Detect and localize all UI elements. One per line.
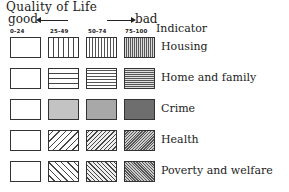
range-label: 0-24	[10, 28, 25, 34]
bad-label: bad	[135, 12, 158, 26]
indicator-header: Indicator	[156, 22, 207, 35]
indicator-label-crime: Crime	[161, 102, 195, 115]
indicator-label-health: Health	[161, 133, 199, 146]
range-label: 25-49	[50, 28, 69, 34]
arrow-left-icon	[40, 20, 68, 21]
swatch-poverty-1	[48, 161, 79, 182]
swatch-home-2	[86, 68, 117, 89]
indicator-label-housing: Housing	[161, 40, 208, 53]
swatch-poverty-2	[86, 161, 117, 182]
swatch-home-3	[124, 68, 155, 89]
swatch-health-2	[86, 130, 117, 151]
swatch-health-1	[48, 130, 79, 151]
swatch-home-1	[48, 68, 79, 89]
swatch-crime-2	[86, 99, 117, 120]
range-label: 50-74	[88, 28, 107, 34]
swatch-crime-0	[10, 99, 41, 120]
swatch-crime-3	[124, 99, 155, 120]
range-label: 75-100	[125, 28, 148, 34]
swatch-crime-1	[48, 99, 79, 120]
swatch-housing-1	[48, 37, 79, 58]
good-label: good	[8, 12, 38, 26]
swatch-poverty-3	[124, 161, 155, 182]
arrow-right-icon	[107, 20, 132, 21]
swatch-home-0	[10, 68, 41, 89]
indicator-label-poverty-welfare: Poverty and welfare	[161, 164, 273, 177]
swatch-poverty-0	[10, 161, 41, 182]
swatch-health-0	[10, 130, 41, 151]
swatch-housing-0	[10, 37, 41, 58]
swatch-housing-3	[124, 37, 155, 58]
indicator-label-home-family: Home and family	[161, 71, 256, 84]
swatch-housing-2	[86, 37, 117, 58]
swatch-health-3	[124, 130, 155, 151]
